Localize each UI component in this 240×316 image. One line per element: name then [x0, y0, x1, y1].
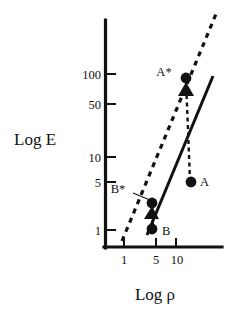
- y-tick-label-1: 1: [95, 224, 101, 238]
- label-b-star: B*: [111, 182, 126, 196]
- y-tick-label-100: 100: [82, 68, 101, 82]
- x-tick-labels: 1 5 10: [121, 253, 183, 267]
- group-b-cluster: [144, 198, 159, 235]
- x-tick-label-10: 10: [171, 253, 184, 267]
- chart-figure: 100 50 10 5 1 1 5 10 Log E Log ρ: [0, 0, 240, 316]
- x-axis-title: Log ρ: [135, 285, 175, 304]
- dashed-trend-line: [122, 14, 216, 241]
- y-tick-label-50: 50: [89, 98, 102, 112]
- y-tick-label-10: 10: [89, 151, 102, 165]
- y-tick-marks: [106, 74, 116, 230]
- label-b: B: [162, 224, 170, 238]
- y-axis-title: Log E: [14, 130, 56, 149]
- scatter-plot-svg: 100 50 10 5 1 1 5 10 Log E Log ρ: [0, 0, 240, 316]
- label-a-star: A*: [156, 65, 171, 79]
- x-tick-label-5: 5: [153, 253, 159, 267]
- data-point-b: [147, 224, 158, 235]
- y-tick-labels: 100 50 10 5 1: [82, 68, 101, 238]
- data-point-a-star: [181, 73, 192, 84]
- axes-group: [104, 20, 222, 248]
- label-a: A: [200, 175, 209, 189]
- group-a-cluster: [178, 73, 196, 188]
- y-tick-label-5: 5: [95, 176, 101, 190]
- data-point-a: [186, 177, 197, 188]
- data-point-a-star-triangle: [178, 82, 194, 96]
- x-tick-label-1: 1: [121, 253, 127, 267]
- x-tick-marks: [124, 238, 176, 246]
